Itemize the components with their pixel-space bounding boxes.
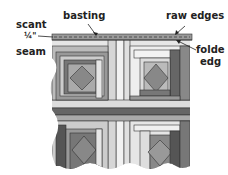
label-edge: edg xyxy=(200,56,221,67)
label-seam: seam xyxy=(16,46,46,57)
quilt-binding-diagram: scant ¼" seam basting raw edges folde ed… xyxy=(0,0,228,175)
seam-leader-line xyxy=(38,36,53,37)
label-quarter-inch: ¼" xyxy=(24,31,36,42)
label-folded: folde xyxy=(196,44,225,55)
label-scant: scant xyxy=(16,19,47,30)
label-basting: basting xyxy=(63,10,105,21)
label-raw-edges: raw edges xyxy=(166,10,224,21)
